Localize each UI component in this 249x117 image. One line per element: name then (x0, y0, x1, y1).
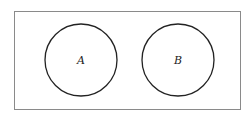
set-a-label: A (76, 54, 85, 67)
set-b-label: B (173, 54, 182, 67)
universal-set-rectangle (15, 12, 241, 110)
venn-diagram: A B (0, 0, 249, 117)
